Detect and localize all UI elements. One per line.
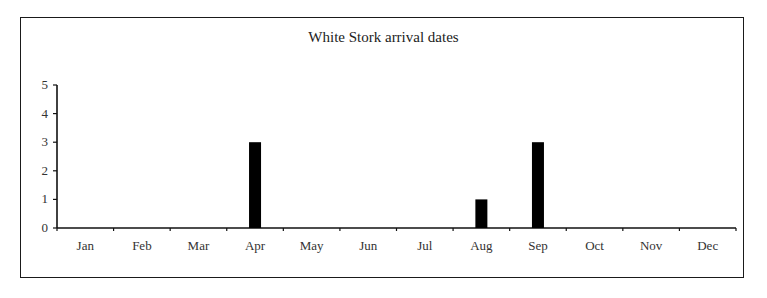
x-tick-label: May [300,238,324,253]
x-tick-label: Jul [417,238,433,253]
y-tick-label: 5 [42,77,49,92]
x-tick-label: Dec [697,238,718,253]
bar-apr [249,142,261,228]
x-axis: JanFebMarAprMayJunJulAugSepOctNovDec [57,228,736,253]
x-tick-label: Aug [470,238,493,253]
x-tick-label: Nov [640,238,663,253]
x-tick-label: Apr [245,238,266,253]
x-tick-label: Jun [359,238,378,253]
x-tick-label: Oct [585,238,604,253]
bar-aug [475,199,487,228]
y-tick-label: 4 [42,106,49,121]
bar-sep [532,142,544,228]
bars [249,142,544,228]
y-tick-label: 1 [42,191,49,206]
y-tick-label: 0 [42,220,49,235]
x-tick-label: Mar [188,238,210,253]
y-tick-label: 2 [42,163,49,178]
x-tick-label: Feb [132,238,152,253]
x-tick-label: Jan [77,238,95,253]
bar-chart: 012345 JanFebMarAprMayJunJulAugSepOctNov… [0,0,767,298]
x-tick-label: Sep [528,238,548,253]
y-tick-label: 3 [42,134,49,149]
y-axis: 012345 [42,77,58,235]
